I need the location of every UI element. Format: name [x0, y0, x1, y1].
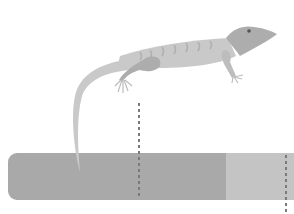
lizard-eye	[247, 29, 251, 33]
lizard-back-toes	[115, 80, 132, 93]
lizard-illustration	[0, 0, 294, 214]
band-light-segment	[226, 153, 294, 200]
lizard-body	[118, 38, 236, 68]
ground-band	[8, 153, 294, 200]
